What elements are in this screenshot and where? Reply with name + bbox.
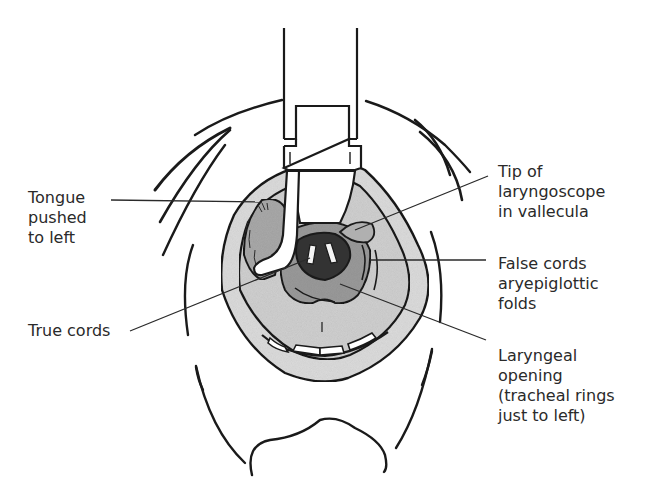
- label-tongue-line3: to left: [28, 228, 87, 248]
- jaw-left: [196, 366, 245, 463]
- label-laryngeal-line1: Laryngeal: [498, 346, 615, 366]
- cheek-right: [431, 232, 441, 322]
- label-tongue-line2: pushed: [28, 208, 87, 228]
- head-outline-top: [195, 100, 282, 135]
- label-true-cords: True cords: [28, 321, 110, 341]
- hair-strand-right: [415, 120, 450, 175]
- label-tip-line2: laryngoscope: [498, 182, 605, 202]
- label-laryngeal-line4: just to left): [498, 406, 615, 426]
- label-laryngoscope-tip: Tip of laryngoscope in vallecula: [498, 162, 605, 222]
- label-false-cords-line2: aryepiglottic: [498, 274, 598, 294]
- chin-outline: [250, 419, 386, 475]
- label-false-cords-line1: False cords: [498, 254, 598, 274]
- label-false-cords: False cords aryepiglottic folds: [498, 254, 598, 314]
- jaw-right: [396, 349, 432, 448]
- label-laryngeal-line3: (tracheal rings: [498, 386, 615, 406]
- label-false-cords-line3: folds: [498, 294, 598, 314]
- leader-tongue: [111, 200, 262, 202]
- label-laryngeal-opening: Laryngeal opening (tracheal rings just t…: [498, 346, 615, 426]
- label-tongue: Tongue pushed to left: [28, 188, 87, 248]
- hair-strand-left: [155, 128, 230, 190]
- label-true-cords-line1: True cords: [28, 321, 110, 341]
- label-tip-line3: in vallecula: [498, 202, 605, 222]
- label-tip-line1: Tip of: [498, 162, 605, 182]
- cheek-left: [185, 245, 193, 335]
- label-tongue-line1: Tongue: [28, 188, 87, 208]
- label-laryngeal-line2: opening: [498, 366, 615, 386]
